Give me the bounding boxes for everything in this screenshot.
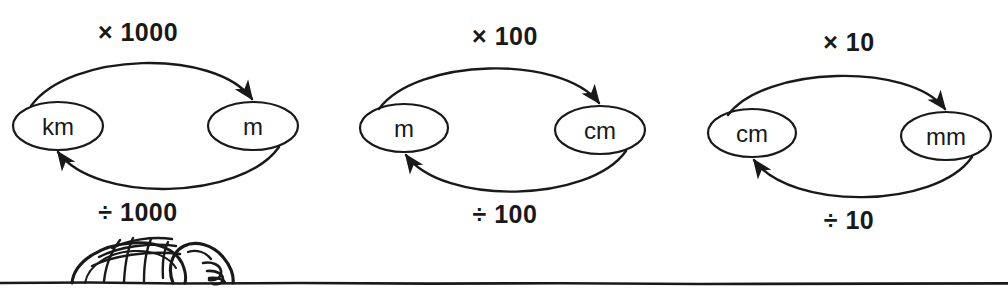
divide-label-m-cm: ÷ 100 <box>432 200 578 229</box>
arrow-multiply-km-to-m <box>31 63 252 106</box>
node-label-mm: mm <box>926 123 966 151</box>
diagram-page: × 1000 ÷ 1000 km m × 100 ÷ 100 m cm × 10… <box>0 0 1008 289</box>
multiply-label-m-cm: × 100 <box>432 22 578 51</box>
divide-label-km-m: ÷ 1000 <box>58 198 218 227</box>
bottom-illustration <box>0 238 1008 284</box>
node-label-cm: cm <box>584 117 616 145</box>
arrow-divide-mm-to-cm <box>754 157 972 197</box>
arrow-divide-cm-to-m <box>406 151 626 192</box>
ground-line-icon <box>0 283 1008 285</box>
arrow-divide-m-to-km <box>58 147 279 189</box>
hand-knuckle-icon <box>188 251 211 259</box>
arrow-multiply-m-to-cm <box>379 68 599 109</box>
node-label-km: km <box>42 113 74 141</box>
node-label-m: m <box>243 113 263 141</box>
node-label-cm2: cm <box>736 120 768 148</box>
multiply-label-cm-mm: × 10 <box>779 28 919 57</box>
node-label-m2: m <box>394 115 414 143</box>
divide-label-cm-mm: ÷ 10 <box>779 206 919 235</box>
multiply-label-km-m: × 1000 <box>58 18 218 47</box>
